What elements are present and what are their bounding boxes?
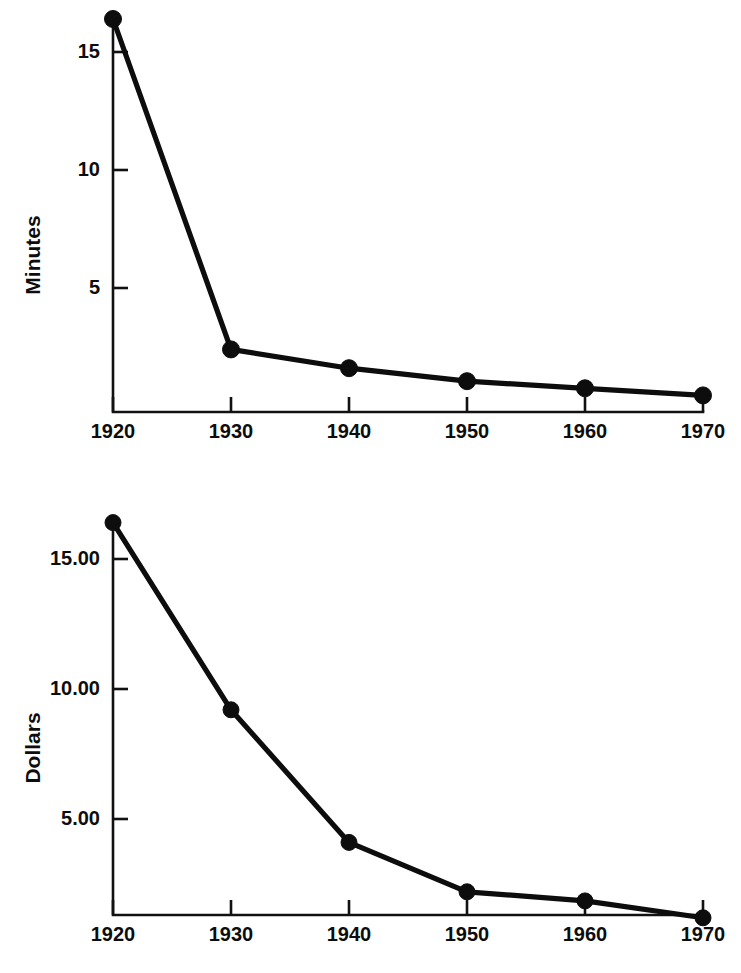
axis-lines-dollars [113,525,703,915]
ytick-label-500: 5.00 [61,807,100,829]
chart-dollars: 15.00 10.00 5.00 1920 1930 1940 1950 196… [0,470,741,973]
chart-minutes: 15 10 5 1920 1930 1940 1950 1960 1970 Mi… [0,0,741,470]
data-point [223,702,239,718]
data-markers-minutes [105,11,712,404]
xtick-label-1950: 1950 [445,923,490,945]
series-minutes [105,11,712,404]
ytick-label-5: 5 [89,276,100,298]
data-point [577,893,593,909]
xtick-label-1970: 1970 [681,923,726,945]
yaxis-title-dollars: Dollars [21,712,44,783]
xtick-label-1940: 1940 [327,420,372,442]
xtick-label-1930: 1930 [209,420,254,442]
series-dollars [105,515,711,926]
data-point [695,387,712,404]
ytick-label-15: 15 [78,40,100,62]
data-markers-dollars [105,515,711,926]
xtick-label-1960: 1960 [563,420,608,442]
yaxis-title-minutes: Minutes [21,215,44,294]
xtick-label-1940: 1940 [327,923,372,945]
xtick-label-1950: 1950 [445,420,490,442]
xtick-label-1960: 1960 [563,923,608,945]
xtick-label-1920: 1920 [91,923,136,945]
ytick-label-1500: 15.00 [50,547,100,569]
data-point [223,341,240,358]
data-line-dollars [113,523,703,918]
xtick-label-1930: 1930 [209,923,254,945]
data-point [459,373,476,390]
data-point [577,380,594,397]
data-point [459,884,475,900]
xtick-label-1970: 1970 [681,420,726,442]
data-line-minutes [113,19,703,395]
ytick-label-1000: 10.00 [50,677,100,699]
axis-lines-minutes [113,18,703,412]
figure-container: 15 10 5 1920 1930 1940 1950 1960 1970 Mi… [0,0,741,973]
ytick-label-10: 10 [78,158,100,180]
xtick-label-1920: 1920 [91,420,136,442]
data-point [341,834,357,850]
data-point [105,515,121,531]
data-point [695,910,711,926]
data-point [105,11,122,28]
data-point [341,360,358,377]
